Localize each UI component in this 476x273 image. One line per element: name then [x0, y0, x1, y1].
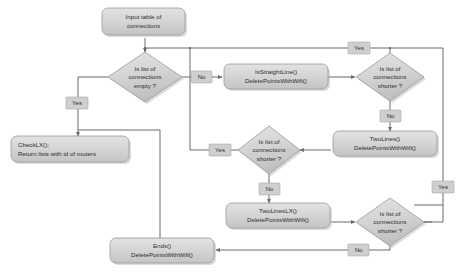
node-decision-empty-line1: Is list of [135, 65, 156, 72]
node-ends-line2: DeletePointsWithWifi() [131, 251, 193, 258]
edge-label-shorter2-yes-text: Yes [215, 147, 225, 153]
node-input-line2: connections [127, 22, 160, 29]
edge-label-empty-yes-text: Yes [72, 100, 82, 106]
node-isstraightline-line2: DeletePointsWithWifi() [245, 77, 307, 84]
node-ends-line1: Ends() [153, 242, 171, 249]
node-decision-empty[interactable]: Is list of connections empty ? [108, 52, 184, 104]
node-twolineslx[interactable]: TwoLinesLX() DeletePointsWithWifi() [226, 203, 332, 230]
flowchart-canvas: Input table of connections Is list of co… [0, 0, 476, 273]
edge-label-shorter1-no: No [380, 110, 401, 122]
node-decision-shorter-1[interactable]: Is list of connections shorter ? [356, 53, 426, 103]
node-decision-shorter2-line2: connections [252, 146, 285, 153]
node-decision-shorter1-line1: Is list of [380, 65, 401, 72]
edge-label-shorter3-yes: Yes [432, 181, 454, 193]
node-checklx-line1: CheckLX(); [18, 141, 49, 148]
edge-label-shorter1-yes-text: Yes [354, 45, 364, 51]
node-decision-shorter-2[interactable]: Is list of connections shorter ? [238, 126, 302, 176]
node-decision-shorter1-line2: connections [373, 73, 406, 80]
node-input-line1: Input table of [126, 13, 162, 20]
edge-label-shorter1-no-text: No [387, 113, 395, 119]
node-decision-shorter2-line3: shorter ? [257, 155, 282, 162]
edge-label-shorter3-yes-text: Yes [438, 184, 448, 190]
node-ends[interactable]: Ends() DeletePointsWithWifi() [110, 238, 216, 265]
node-twolines[interactable]: TwoLines() DeletePointsWithWifi() [333, 131, 439, 158]
edge-label-shorter2-yes: Yes [209, 144, 231, 156]
edge-label-shorter3-no-text: No [355, 247, 363, 253]
node-twolines-line1: TwoLines() [370, 135, 400, 142]
edge-label-shorter1-yes: Yes [348, 42, 370, 54]
node-checklx[interactable]: CheckLX(); Return lists with id of route… [11, 136, 131, 164]
edge-shorter3-yes-right [424, 205, 443, 222]
node-decision-shorter3-line3: shorter ? [378, 227, 403, 234]
flowchart-svg: Input table of connections Is list of co… [0, 0, 476, 273]
node-input-table[interactable]: Input table of connections [102, 8, 187, 37]
node-decision-shorter1-line3: shorter ? [378, 82, 403, 89]
node-decision-empty-line3: empty ? [134, 82, 157, 89]
edge-label-shorter3-no: No [348, 244, 369, 256]
node-checklx-line2: Return lists with id of routers [18, 150, 96, 157]
edge-label-empty-no-text: No [198, 74, 206, 80]
edge-label-shorter2-no-text: No [266, 186, 274, 192]
node-isstraightline[interactable]: IsStraightLine() DeletePointsWithWifi() [224, 64, 330, 91]
edge-label-shorter2-no: No [259, 183, 280, 195]
node-decision-shorter3-line2: connections [373, 218, 406, 225]
node-twolines-line2: DeletePointsWithWifi() [354, 144, 416, 151]
edge-label-empty-yes: Yes [66, 97, 88, 109]
node-decision-shorter3-line1: Is list of [380, 210, 401, 217]
node-isstraightline-line1: IsStraightLine() [255, 68, 297, 75]
edge-label-empty-no: No [191, 71, 212, 83]
node-decision-shorter2-line1: Is list of [259, 138, 280, 145]
node-twolineslx-line1: TwoLinesLX() [259, 207, 297, 214]
node-twolineslx-line2: DeletePointsWithWifi() [247, 216, 309, 223]
node-decision-empty-line2: connections [128, 73, 161, 80]
